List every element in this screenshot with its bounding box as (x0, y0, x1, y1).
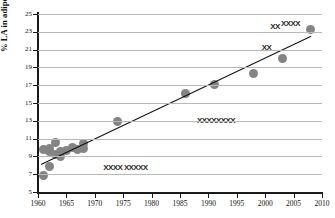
x-tick-mark (95, 194, 96, 198)
gridline (38, 14, 322, 15)
x-tick-mark (66, 194, 67, 198)
y-axis-title: % LA in adipose fat (0, 0, 9, 52)
x-tick-label: 1960 (23, 200, 53, 208)
x-tick-mark (38, 194, 39, 198)
gridline (38, 139, 322, 140)
data-point (45, 162, 54, 171)
y-tick-label: 11 (16, 135, 32, 142)
y-tick-label: 13 (16, 117, 32, 124)
x-tick-label: 1985 (165, 200, 195, 208)
x-tick-mark (152, 194, 153, 198)
gridline (38, 121, 322, 122)
x-tick-label: 1965 (51, 200, 81, 208)
x-tick-mark (265, 194, 266, 198)
x-tick-mark (237, 194, 238, 198)
scan-artifact-mark: XX (262, 44, 271, 52)
x-tick-label: 2000 (250, 200, 280, 208)
y-tick-label: 7 (16, 171, 32, 178)
scan-artifact-mark: XXXX XXXXX (103, 164, 147, 172)
x-tick-mark (123, 194, 124, 198)
y-tick-label: 19 (16, 64, 32, 71)
data-point (278, 54, 287, 63)
y-tick-label: 23 (16, 28, 32, 35)
scatter-chart: % LA in adipose fat 5791113151719212325 … (0, 0, 335, 218)
x-tick-label: 1990 (193, 200, 223, 208)
data-point (249, 69, 258, 78)
trendline (41, 35, 311, 164)
gridline (38, 103, 322, 104)
data-point (39, 171, 48, 180)
x-tick-label: 1980 (137, 200, 167, 208)
gridline (38, 32, 322, 33)
y-tick-label: 5 (16, 189, 32, 196)
x-tick-mark (208, 194, 209, 198)
x-tick-label: 1995 (222, 200, 252, 208)
scan-artifact-mark: XXXX (281, 20, 300, 28)
y-tick-label: 17 (16, 82, 32, 89)
x-tick-mark (180, 194, 181, 198)
gridline (38, 174, 322, 175)
gridline (38, 50, 322, 51)
y-tick-label: 9 (16, 153, 32, 160)
scan-artifact-mark: XX (270, 23, 279, 31)
y-tick-label: 21 (16, 46, 32, 53)
x-tick-mark (294, 194, 295, 198)
x-tick-label: 1975 (108, 200, 138, 208)
x-tick-mark (322, 194, 323, 198)
x-tick-label: 1970 (80, 200, 110, 208)
y-tick-label: 25 (16, 11, 32, 18)
x-tick-label: 2005 (279, 200, 309, 208)
gridline (38, 67, 322, 68)
x-tick-label: 2010 (307, 200, 335, 208)
gridline (38, 85, 322, 86)
gridline (38, 156, 322, 157)
y-tick-label: 15 (16, 100, 32, 107)
